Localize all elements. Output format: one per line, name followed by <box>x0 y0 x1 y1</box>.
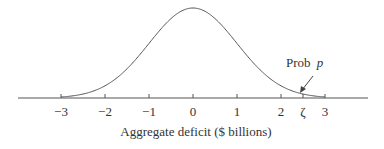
x-tick-label: ζ <box>300 104 306 119</box>
density-curve <box>61 8 325 97</box>
x-tick-label: −3 <box>54 104 68 119</box>
x-tick-label: 2 <box>278 104 285 119</box>
prob-p-annotation: Prob p <box>286 55 324 70</box>
x-tick-label: −2 <box>98 104 112 119</box>
x-tick-label: 1 <box>234 104 241 119</box>
x-tick-label: −1 <box>142 104 156 119</box>
annotation-variable: p <box>316 55 324 70</box>
normal-distribution-chart: −3−2−1012ζ3 Prob p Aggregate deficit ($ … <box>0 0 384 149</box>
x-tick-label: 3 <box>322 104 329 119</box>
x-axis-title: Aggregate deficit ($ billions) <box>120 124 271 139</box>
annotation-arrow-head <box>300 86 306 93</box>
annotation-prefix: Prob <box>286 55 311 70</box>
x-tick-label: 0 <box>190 104 197 119</box>
